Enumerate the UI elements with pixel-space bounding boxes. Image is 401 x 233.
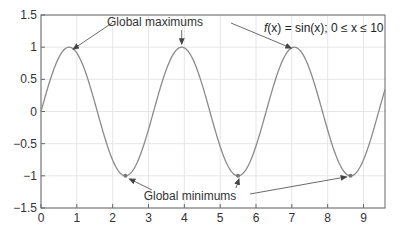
x-tick-label: 3 bbox=[145, 211, 152, 225]
x-tick-labels: 0123456789 bbox=[38, 211, 368, 225]
x-tick-label: 2 bbox=[109, 211, 116, 225]
x-tick-label: 4 bbox=[181, 211, 188, 225]
x-tick-label: 6 bbox=[253, 211, 260, 225]
x-tick-label: 9 bbox=[360, 211, 367, 225]
x-tick-label: 0 bbox=[38, 211, 45, 225]
x-tick-label: 8 bbox=[324, 211, 331, 225]
x-tick-label: 7 bbox=[288, 211, 295, 225]
global-maximums-label: Global maximums bbox=[107, 15, 203, 29]
minimum-marker bbox=[349, 174, 353, 178]
annotation-arrows bbox=[73, 23, 346, 194]
x-tick-label: 5 bbox=[217, 211, 224, 225]
minimum-marker bbox=[236, 174, 240, 178]
formula-label: f(x) = sin(x); 0 ≤ x ≤ 10 bbox=[264, 21, 384, 35]
y-tick-label: 1.5 bbox=[20, 8, 37, 22]
y-tick-label: 0 bbox=[30, 105, 37, 119]
x-tick-label: 1 bbox=[73, 211, 80, 225]
y-tick-label: −1 bbox=[23, 169, 37, 183]
sine-chart: 0123456789 −1.5−1−0.500.511.5 Global max… bbox=[0, 0, 401, 233]
y-tick-labels: −1.5−1−0.500.511.5 bbox=[13, 8, 37, 215]
y-tick-label: 1 bbox=[30, 40, 37, 54]
y-tick-label: −1.5 bbox=[13, 201, 37, 215]
global-minimums-label: Global minimums bbox=[144, 189, 237, 203]
minimum-marker bbox=[123, 174, 127, 178]
y-tick-label: −0.5 bbox=[13, 137, 37, 151]
y-tick-label: 0.5 bbox=[20, 72, 37, 86]
